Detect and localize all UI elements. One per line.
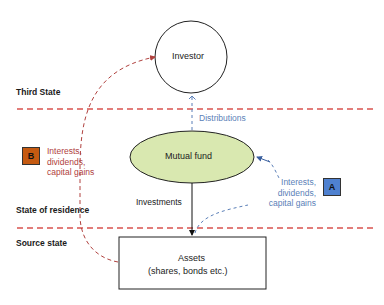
zone-state-of-residence: State of residence <box>16 205 89 215</box>
flow-a-line-3: capital gains <box>262 198 316 209</box>
flow-b-line-3: capital gains <box>47 167 94 178</box>
assets-label: Assets <box>178 253 205 264</box>
badge-b: B <box>22 147 40 165</box>
flow-b-line-2: dividends, <box>47 157 94 168</box>
assets-sublabel: (shares, bonds etc.) <box>148 266 228 277</box>
flow-b-line-1: Interests, <box>47 146 94 157</box>
flow-a-arrowhead <box>257 157 270 162</box>
investments-label: Investments <box>136 197 182 207</box>
flow-a-label: Interests, dividends, capital gains <box>262 177 316 209</box>
flow-a-line-2: dividends, <box>262 188 316 199</box>
zone-source-state: Source state <box>16 238 67 248</box>
zone-third-state: Third State <box>16 87 60 97</box>
flow-b-label: Interests, dividends, capital gains <box>47 146 94 178</box>
distributions-label: Distributions <box>199 113 246 123</box>
mutual-fund-label: Mutual fund <box>165 151 212 162</box>
badge-a: A <box>323 178 341 196</box>
investor-label: Investor <box>172 51 204 62</box>
flow-a-line-1: Interests, <box>262 177 316 188</box>
